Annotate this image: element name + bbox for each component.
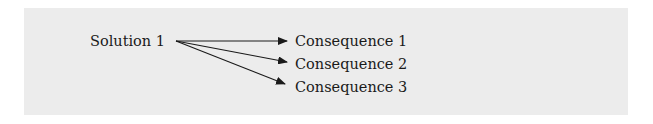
arrow-to-consequence-3 (176, 41, 285, 84)
target-node-consequence-2: Consequence 2 (295, 56, 407, 72)
target-node-consequence-3: Consequence 3 (295, 79, 407, 95)
target-node-consequence-1: Consequence 1 (295, 33, 407, 49)
arrow-to-consequence-2 (176, 41, 287, 62)
